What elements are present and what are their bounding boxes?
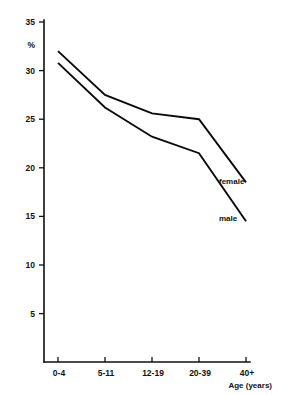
series-line-male xyxy=(58,63,246,221)
y-axis-unit-label: % xyxy=(27,40,35,50)
x-tick-label-20-39: 20-39 xyxy=(189,368,211,378)
series-label-male: male xyxy=(219,214,238,223)
x-axis-title: Age (years) xyxy=(228,381,272,390)
y-tick-label-5: 5 xyxy=(30,309,35,319)
y-tick-label-35: 35 xyxy=(26,17,36,27)
y-tick-label-10: 10 xyxy=(26,260,36,270)
chart-canvas: 35 30 25 20 15 10 5 % 0-4 5-11 12-19 20-… xyxy=(0,0,292,395)
y-tick-label-15: 15 xyxy=(26,211,36,221)
line-chart: 35 30 25 20 15 10 5 % 0-4 5-11 12-19 20-… xyxy=(0,0,292,395)
chart-title-fragment xyxy=(22,0,172,3)
y-tick-label-20: 20 xyxy=(26,163,36,173)
x-tick-label-40plus: 40+ xyxy=(240,368,254,378)
x-tick-label-0-4: 0-4 xyxy=(53,368,66,378)
series-label-female: female xyxy=(219,177,245,186)
y-tick-label-30: 30 xyxy=(26,66,36,76)
x-tick-label-5-11: 5-11 xyxy=(98,368,115,378)
y-tick-label-25: 25 xyxy=(26,114,36,124)
x-tick-label-12-19: 12-19 xyxy=(142,368,164,378)
series-line-female xyxy=(58,51,246,182)
